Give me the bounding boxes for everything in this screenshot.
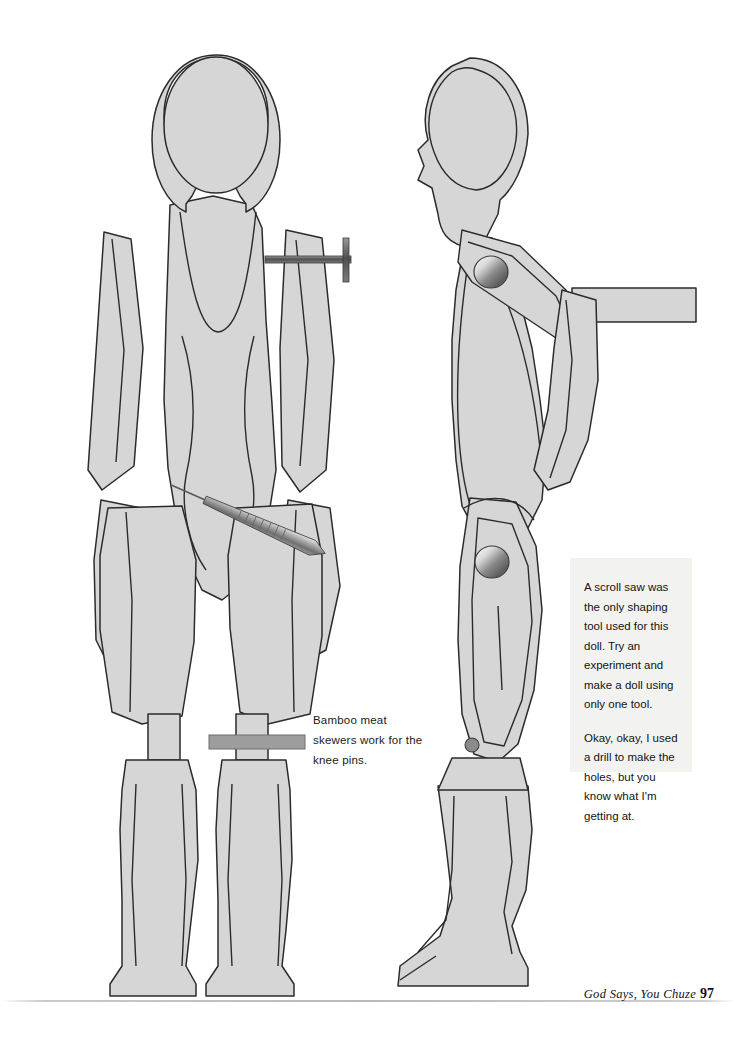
side-knee-pivot-pin [475, 546, 509, 578]
front-left-thigh-piece [100, 506, 196, 724]
sidebar-paragraph-2: Okay, okay, I used a drill to make the h… [584, 729, 678, 827]
footer-page-number: 97 [700, 986, 714, 1001]
side-thigh-piece [458, 498, 542, 762]
front-left-knee-tab [148, 714, 180, 760]
side-ankle-pin [465, 738, 479, 752]
knee-pin-callout-text: Bamboo meat skewers work for the knee pi… [313, 710, 428, 770]
footer-book-title: God Says, You Chuze [584, 987, 696, 1001]
front-knee-skewer-hardware [209, 735, 305, 749]
front-right-lower-leg-piece [206, 760, 294, 996]
side-shoulder-pivot-pin [474, 256, 508, 288]
sidebar-paragraph-1: A scroll saw was the only shaping tool u… [584, 578, 678, 715]
sidebar-note-box: A scroll saw was the only shaping tool u… [570, 558, 692, 772]
front-right-upper-arm-piece [280, 230, 334, 492]
page-footer: God Says, You Chuze97 [0, 984, 714, 1002]
side-lower-leg-foot-piece [398, 786, 532, 986]
doll-pattern-illustration: .part{fill:#d6d6d6;stroke:#2b2b2b;stroke… [0, 0, 734, 1058]
side-calf-top-piece [438, 758, 528, 790]
front-left-lower-leg-piece [110, 760, 198, 996]
front-left-upper-arm-piece [88, 232, 143, 490]
front-head-piece [152, 55, 280, 212]
front-view-doll-pattern [88, 55, 351, 996]
book-page: .part{fill:#d6d6d6;stroke:#2b2b2b;stroke… [0, 0, 734, 1058]
side-head-piece [418, 58, 528, 248]
side-view-doll-pattern [398, 58, 696, 986]
